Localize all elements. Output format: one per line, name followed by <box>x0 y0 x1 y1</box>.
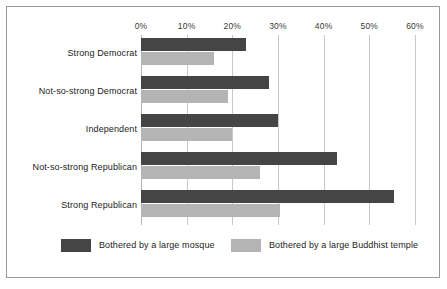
bar-series-1 <box>141 152 337 165</box>
bar-group: Not-so-strong Democrat <box>7 75 441 113</box>
bar-series-1 <box>141 38 246 51</box>
legend-label: Bothered by a large mosque <box>99 240 215 250</box>
bar-series-2 <box>141 204 280 217</box>
legend-item[interactable]: Bothered by a large mosque <box>61 235 215 255</box>
legend-swatch-icon <box>231 239 261 252</box>
chart-frame: 0%10%20%30%40%50%60% Strong DemocratNot-… <box>6 6 440 278</box>
category-label: Independent <box>86 124 137 134</box>
bar-series-1 <box>141 76 269 89</box>
bar-series-2 <box>141 166 260 179</box>
category-label: Not-so-strong Republican <box>33 162 137 172</box>
bar-series-1 <box>141 114 278 127</box>
legend-swatch-icon <box>61 239 91 252</box>
x-tick-label: 60% <box>406 21 424 31</box>
x-tick-label: 10% <box>178 21 196 31</box>
x-tick-label: 20% <box>224 21 242 31</box>
bar-rows: Strong DemocratNot-so-strong DemocratInd… <box>7 35 441 225</box>
x-tick-label: 0% <box>135 21 148 31</box>
bar-group: Independent <box>7 113 441 151</box>
legend-label: Bothered by a large Buddhist temple <box>269 240 418 250</box>
x-tick-label: 30% <box>269 21 287 31</box>
x-tick-label: 50% <box>361 21 379 31</box>
bar-group: Strong Democrat <box>7 37 441 75</box>
bar-series-1 <box>141 190 394 203</box>
bar-group: Not-so-strong Republican <box>7 151 441 189</box>
category-label: Strong Republican <box>61 200 137 210</box>
category-label: Not-so-strong Democrat <box>39 86 137 96</box>
plot-area: 0%10%20%30%40%50%60% Strong DemocratNot-… <box>7 7 441 229</box>
x-tick-label: 40% <box>315 21 333 31</box>
bar-series-2 <box>141 90 228 103</box>
bar-series-2 <box>141 52 214 65</box>
legend-item[interactable]: Bothered by a large Buddhist temple <box>231 235 418 255</box>
bar-group: Strong Republican <box>7 189 441 227</box>
bar-series-2 <box>141 128 232 141</box>
category-label: Strong Democrat <box>67 48 137 58</box>
chart-legend: Bothered by a large mosqueBothered by a … <box>7 235 441 261</box>
x-axis-tick-labels: 0%10%20%30%40%50%60% <box>7 21 441 33</box>
